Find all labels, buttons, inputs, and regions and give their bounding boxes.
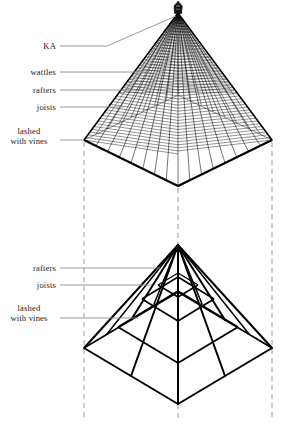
diagram-page: KA wattles rafters joists lashed with vi…	[0, 0, 289, 424]
label-wattles: wattles	[0, 67, 56, 77]
label-joists-upper: joists	[0, 102, 56, 112]
label-lashed-line1: lashed	[0, 126, 58, 136]
label-lashed-line2: with vines	[0, 136, 58, 146]
label-joists-lower: joists	[0, 280, 56, 290]
ka-finial-icon	[174, 1, 182, 13]
roof-construction-diagram	[0, 0, 289, 424]
label-ka: KA	[0, 41, 56, 51]
upper-roof-view	[84, 1, 272, 186]
label-rafters-upper: rafters	[0, 85, 56, 95]
label-lashed-lower-line1: lashed	[0, 303, 58, 313]
label-lashed-with-vines-lower: lashed with vines	[0, 303, 58, 323]
frame-rafters	[84, 245, 272, 404]
label-lashed-lower-line2: with vines	[0, 313, 58, 323]
leader-lines-upper	[60, 16, 176, 140]
label-rafters-lower: rafters	[0, 263, 56, 273]
label-lashed-with-vines-upper: lashed with vines	[0, 126, 58, 146]
